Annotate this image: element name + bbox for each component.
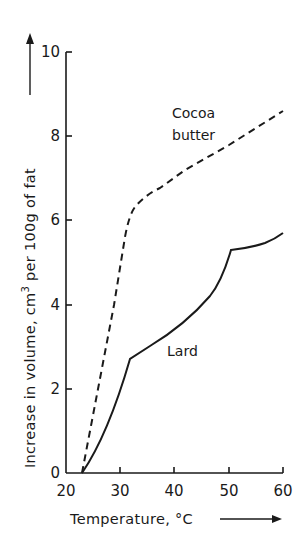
x-tick-label: 30 xyxy=(110,482,129,500)
y-tick-label: 8 xyxy=(50,127,60,145)
cocoa-butter-label: butter xyxy=(172,127,215,143)
y-tick-label: 10 xyxy=(41,43,60,61)
y-tick-labels: 0 2 4 6 8 10 xyxy=(41,43,60,482)
series-cocoa-butter-line xyxy=(82,111,283,473)
x-axis-title: Temperature, °C xyxy=(69,511,193,527)
y-tick-label: 4 xyxy=(50,296,60,314)
x-tick-label: 40 xyxy=(164,482,183,500)
x-tick-label: 50 xyxy=(219,482,238,500)
y-axis-title: Increase in volume, cm3 per 100g of fat xyxy=(20,168,38,468)
y-tick-label: 2 xyxy=(50,380,60,398)
y-tick-label: 0 xyxy=(50,464,60,482)
lard-label: Lard xyxy=(167,343,198,359)
x-tick-labels: 20 30 40 50 60 xyxy=(56,482,292,500)
y-tick-label: 6 xyxy=(50,211,60,229)
x-tick-label: 60 xyxy=(273,482,292,500)
x-tick-label: 20 xyxy=(56,482,75,500)
y-arrow-icon xyxy=(26,33,34,95)
chart-canvas: 0 2 4 6 8 10 20 30 40 50 60 Temperature,… xyxy=(0,0,307,533)
cocoa-butter-label: Cocoa xyxy=(172,105,215,121)
x-arrow-icon xyxy=(220,515,282,523)
